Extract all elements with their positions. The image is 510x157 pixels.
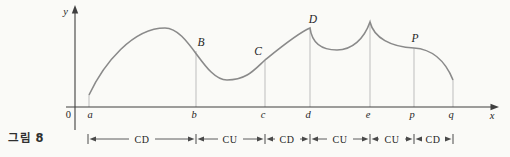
figure-caption-label: 그림 8 [8,129,44,145]
axis-point-label-c: c [261,109,266,120]
x-axis-label: x [489,110,495,121]
axis-point-label-q: q [448,109,453,120]
axis-point-label-p: p [408,109,414,120]
axis-point-label-d: d [305,109,311,120]
guide-lines [89,22,453,107]
x-axis: x 0 [66,104,499,121]
curve-point-label-P: P [410,32,418,44]
y-axis-arrow-icon [72,5,78,14]
interval-spans: CD CU CD [88,134,453,145]
interval-label: CU [333,134,348,145]
curve-point-label-D: D [308,13,318,25]
curve-point-labels: B C D P [197,13,418,57]
interval-span-ep: CU [372,134,413,145]
interval-label: CD [280,134,295,145]
interval-label: CD [426,134,441,145]
y-axis-label: y [62,6,68,17]
axis-point-label-b: b [191,109,196,120]
interval-label: CU [385,134,400,145]
interval-span-ab: CD [90,134,195,145]
interval-span-de: CU [312,134,369,145]
figure-canvas: y x 0 a b c d e p q B C D P [0,0,510,157]
right-arrow-icon [445,137,452,142]
interval-label: CU [223,134,238,145]
axis-point-label-e: e [366,109,371,120]
function-curve [89,22,453,95]
interval-span-cd: CD [267,134,309,145]
axis-point-labels: a b c d e p q [87,109,453,120]
axis-point-label-a: a [87,109,92,120]
curve-point-label-C: C [254,45,262,57]
curve-point-label-B: B [197,36,204,48]
interval-label: CD [135,134,150,145]
figure-8-diagram: 그림 8 y x 0 a b c [0,0,510,157]
interval-span-bc: CU [198,134,264,145]
interval-span-pq: CD [416,134,452,145]
origin-label: 0 [66,109,71,120]
